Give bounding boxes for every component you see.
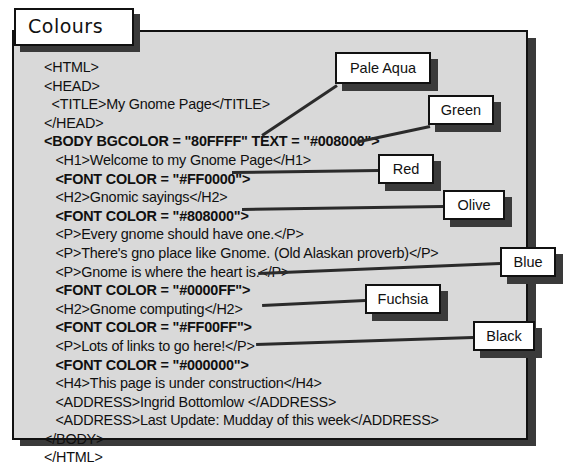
callout-fuchsia: Fuchsia bbox=[365, 284, 441, 314]
callout-label: Fuchsia bbox=[378, 291, 429, 307]
title-tab: Colours bbox=[14, 8, 134, 46]
code-line: <HEAD> bbox=[44, 77, 514, 96]
callout-label: Pale Aqua bbox=[350, 60, 416, 76]
callout-olive: Olive bbox=[443, 190, 505, 220]
code-line: <ADDRESS>Ingrid Bottomlow </ADDRESS> bbox=[44, 393, 514, 412]
code-line: <BODY BGCOLOR = "80FFFF" TEXT = "#008000… bbox=[44, 132, 514, 151]
callout-label: Blue bbox=[513, 254, 542, 270]
callout-green: Green bbox=[428, 95, 494, 125]
code-line: </HTML> bbox=[44, 448, 514, 466]
code-line: </BODY> bbox=[44, 430, 514, 449]
callout-label: Olive bbox=[457, 197, 490, 213]
panel-shadow-right bbox=[528, 38, 536, 446]
callout-black: Black bbox=[473, 321, 535, 351]
code-line: <P>There's gno place like Gnome. (Old Al… bbox=[44, 244, 514, 263]
title-tab-label: Colours bbox=[28, 15, 103, 37]
code-line: <H1>Welcome to my Gnome Page</H1> bbox=[44, 151, 514, 170]
code-line: <P>Every gnome should have one.</P> bbox=[44, 225, 514, 244]
code-line: <ADDRESS>Last Update: Mudday of this wee… bbox=[44, 411, 514, 430]
code-line: <HTML> bbox=[44, 58, 514, 77]
code-line: <FONT COLOR = "#000000"> bbox=[44, 356, 514, 375]
code-line: <H4>This page is under construction</H4> bbox=[44, 374, 514, 393]
callout-red: Red bbox=[378, 154, 434, 184]
callout-blue: Blue bbox=[500, 247, 556, 277]
callout-pale-aqua: Pale Aqua bbox=[335, 52, 431, 84]
callout-label: Green bbox=[441, 102, 481, 118]
callout-label: Black bbox=[486, 328, 521, 344]
callout-label: Red bbox=[393, 161, 420, 177]
code-line: <FONT COLOR = "#FF00FF"> bbox=[44, 318, 514, 337]
